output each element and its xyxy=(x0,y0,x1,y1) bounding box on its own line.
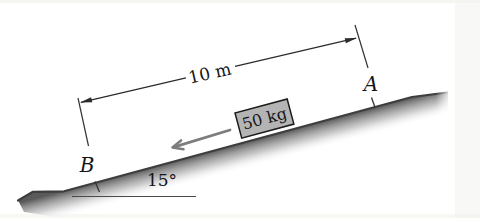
point-a-label: A xyxy=(362,72,378,96)
incline-diagram: 15° 10 m B A 50 kg xyxy=(0,0,480,218)
dimension-line-group: 10 m xyxy=(80,38,357,103)
dimension-line-left xyxy=(81,78,186,103)
extension-line-a xyxy=(355,25,368,68)
incline-diagram-canvas: 15° 10 m B A 50 kg xyxy=(0,0,480,218)
dimension-line-right xyxy=(235,38,356,66)
scan-edge-artifact-right xyxy=(455,0,480,218)
angle-label: 15° xyxy=(147,170,177,190)
dimension-arrowhead-right xyxy=(345,38,357,43)
ground-right-fade xyxy=(436,84,452,136)
extension-line-b xyxy=(78,98,89,146)
point-b-label: B xyxy=(79,153,95,177)
scan-edge-artifact-top xyxy=(0,0,480,3)
dimension-arrowhead-left xyxy=(80,97,92,102)
motion-arrow-icon xyxy=(173,130,231,149)
distance-label: 10 m xyxy=(187,58,234,87)
motion-arrow-shaft xyxy=(175,130,231,147)
point-a-tick xyxy=(372,98,376,108)
